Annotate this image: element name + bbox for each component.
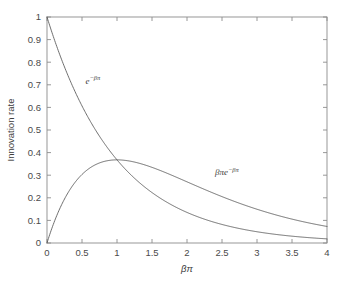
x-tick-label: 4 bbox=[324, 247, 329, 258]
x-tick-label: 2 bbox=[184, 247, 189, 258]
x-tick-label: 0.5 bbox=[75, 247, 88, 258]
chart-figure: 00.511.522.533.54 00.10.20.30.40.50.60.7… bbox=[0, 0, 344, 287]
y-tick-label: 1 bbox=[36, 11, 41, 22]
x-tick-label: 3 bbox=[254, 247, 259, 258]
y-tick-label: 0.7 bbox=[28, 79, 41, 90]
x-tick-label: 3.5 bbox=[285, 247, 298, 258]
y-tick-label: 0.3 bbox=[28, 170, 41, 181]
x-tick-label: 1 bbox=[114, 247, 119, 258]
x-axis-tick-labels: 00.511.522.533.54 bbox=[44, 247, 329, 258]
figure-background bbox=[0, 0, 344, 287]
y-tick-label: 0.9 bbox=[28, 34, 41, 45]
y-tick-label: 0.2 bbox=[28, 192, 41, 203]
y-tick-label: 0.5 bbox=[28, 124, 41, 135]
y-axis-title: Innovation rate bbox=[5, 99, 16, 162]
y-tick-label: 0.6 bbox=[28, 102, 41, 113]
x-tick-label: 0 bbox=[44, 247, 49, 258]
x-axis-title: βπ bbox=[180, 263, 193, 274]
x-tick-label: 2.5 bbox=[215, 247, 228, 258]
y-tick-label: 0.1 bbox=[28, 215, 41, 226]
y-tick-label: 0.4 bbox=[28, 147, 41, 158]
y-tick-label: 0.8 bbox=[28, 57, 41, 68]
innovation-rate-plot: 00.511.522.533.54 00.10.20.30.40.50.60.7… bbox=[0, 0, 344, 287]
x-tick-label: 1.5 bbox=[145, 247, 158, 258]
y-tick-label: 0 bbox=[36, 237, 41, 248]
